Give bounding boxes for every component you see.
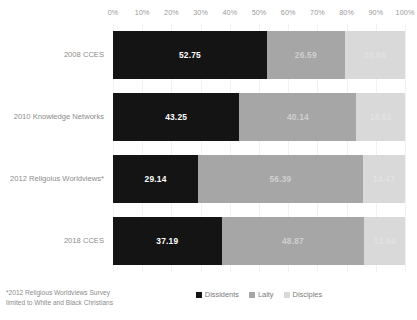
bar-segment-value: 13.94 (374, 236, 396, 246)
x-axis-tick-label: 90% (368, 8, 383, 17)
bar-segment-value: 14.47 (373, 174, 395, 184)
bar-row: 43.2540.1416.61 (113, 86, 405, 148)
bar-segment-laity: 48.87 (222, 217, 365, 265)
bar-rows: 52.7526.5920.6643.2540.1416.6129.1456.39… (113, 24, 405, 272)
category-label: 2008 CCES (0, 24, 109, 86)
category-label: 2018 CCES (0, 210, 109, 272)
bar-segment-value: 56.39 (269, 174, 291, 184)
stacked-bar: 29.1456.3914.47 (113, 155, 405, 203)
bar-segment-laity: 40.14 (239, 93, 356, 141)
bar-segment-disciples: 13.94 (364, 217, 405, 265)
bar-segment-value: 29.14 (145, 174, 167, 184)
category-label: 2010 Knowledge Networks (0, 86, 109, 148)
legend-item[interactable]: Laity (249, 290, 274, 299)
x-axis-tick-label: 50% (252, 8, 267, 17)
x-axis-tick-label: 30% (193, 8, 208, 17)
plot-area: 52.7526.5920.6643.2540.1416.6129.1456.39… (113, 24, 405, 272)
gridline (405, 24, 406, 272)
bar-segment-value: 52.75 (179, 50, 201, 60)
legend-label: Disciples (293, 290, 323, 299)
stacked-bar-chart: 0%10%20%30%40%50%60%70%80%90%100% 52.752… (0, 0, 417, 320)
stacked-bar: 37.1948.8713.94 (113, 217, 405, 265)
legend-label: Laity (258, 290, 274, 299)
x-axis-ticks: 0%10%20%30%40%50%60%70%80%90%100% (113, 8, 405, 20)
stacked-bar: 52.7526.5920.66 (113, 31, 405, 79)
bar-segment-dissidents: 52.75 (113, 31, 267, 79)
bar-segment-value: 40.14 (287, 112, 309, 122)
bar-segment-dissidents: 29.14 (113, 155, 198, 203)
stacked-bar: 43.2540.1416.61 (113, 93, 405, 141)
bar-segment-disciples: 14.47 (363, 155, 405, 203)
bar-segment-disciples: 16.61 (356, 93, 405, 141)
x-axis-tick-label: 80% (339, 8, 354, 17)
bar-segment-dissidents: 43.25 (113, 93, 239, 141)
bar-segment-value: 26.59 (295, 50, 317, 60)
bar-row: 29.1456.3914.47 (113, 148, 405, 210)
bar-row: 37.1948.8713.94 (113, 210, 405, 272)
bar-segment-dissidents: 37.19 (113, 217, 222, 265)
legend-swatch-icon (249, 292, 255, 298)
bar-segment-value: 48.87 (282, 236, 304, 246)
bar-segment-laity: 56.39 (198, 155, 363, 203)
x-axis-tick-label: 20% (164, 8, 179, 17)
x-axis-tick-label: 70% (310, 8, 325, 17)
bar-segment-value: 16.61 (370, 112, 392, 122)
category-label: 2012 Religoius Worldviews* (0, 148, 109, 210)
legend-item[interactable]: Disciples (284, 290, 323, 299)
x-axis-tick-label: 0% (108, 8, 119, 17)
bar-segment-value: 20.66 (364, 50, 386, 60)
bar-row: 52.7526.5920.66 (113, 24, 405, 86)
legend-item[interactable]: Dissidents (196, 290, 239, 299)
x-axis-tick-label: 60% (281, 8, 296, 17)
bar-segment-value: 37.19 (156, 236, 178, 246)
x-axis-tick-label: 100% (396, 8, 415, 17)
legend-label: Dissidents (205, 290, 239, 299)
bar-segment-value: 43.25 (165, 112, 187, 122)
x-axis-tick-label: 10% (135, 8, 150, 17)
legend-swatch-icon (284, 292, 290, 298)
x-axis-tick-label: 40% (222, 8, 237, 17)
legend-swatch-icon (196, 292, 202, 298)
bar-segment-laity: 26.59 (267, 31, 345, 79)
bar-segment-disciples: 20.66 (345, 31, 405, 79)
chart-legend: DissidentsLaityDisciples (113, 290, 405, 299)
chart-footnote: *2012 Religious Worldviews Survey limite… (6, 288, 116, 307)
category-axis-labels: 2008 CCES2010 Knowledge Networks2012 Rel… (0, 24, 109, 272)
